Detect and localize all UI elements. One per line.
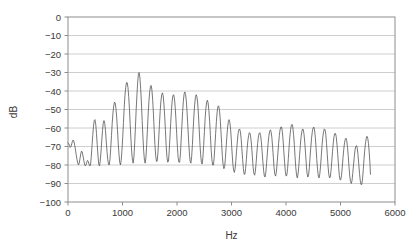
- y-tick-label: 0: [56, 12, 61, 23]
- x-axis-label: Hz: [225, 230, 237, 241]
- x-tick-label: 6000: [384, 207, 405, 218]
- x-tick-label: 0: [65, 207, 70, 218]
- y-tick-label: −20: [45, 49, 61, 60]
- x-tick-label: 4000: [275, 207, 296, 218]
- spectrum-chart: 0−10−20−30−40−50−60−70−80−90−100 0100020…: [0, 0, 418, 246]
- x-tick-label: 5000: [330, 207, 351, 218]
- x-tick-label: 3000: [221, 207, 242, 218]
- y-axis-label: dB: [8, 106, 19, 119]
- y-tick-label: −50: [45, 104, 61, 115]
- y-tick-label: −80: [45, 160, 61, 171]
- y-tick-label: −70: [45, 141, 61, 152]
- y-tick-label: −40: [45, 86, 61, 97]
- x-tick-label: 1000: [112, 207, 133, 218]
- x-tick-label: 2000: [166, 207, 187, 218]
- y-tick-label: −10: [45, 30, 61, 41]
- figure-background: [0, 0, 418, 246]
- y-tick-label: −30: [45, 67, 61, 78]
- spectrum-figure: 0−10−20−30−40−50−60−70−80−90−100 0100020…: [0, 0, 418, 246]
- y-tick-label: −60: [45, 123, 61, 134]
- y-tick-label: −90: [45, 178, 61, 189]
- y-tick-label: −100: [40, 197, 61, 208]
